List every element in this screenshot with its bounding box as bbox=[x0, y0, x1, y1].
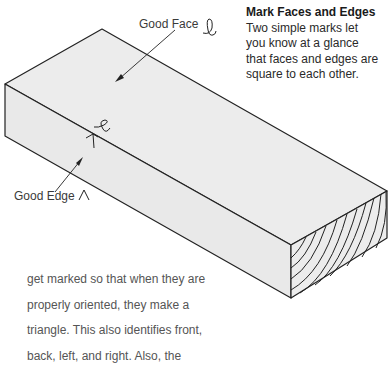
caption-line: you know at a glance bbox=[246, 36, 388, 52]
body-line: triangle. This also identifies front, bbox=[27, 318, 257, 344]
edge-mark-icon bbox=[79, 190, 89, 200]
good-face-label: Good Face bbox=[139, 17, 198, 31]
body-paragraph: get marked so that when they are properl… bbox=[27, 267, 257, 367]
caption-line: square to each other. bbox=[246, 67, 388, 83]
body-line: properly oriented, they make a bbox=[27, 293, 257, 319]
caption: Mark Faces and Edges Two simple marks le… bbox=[246, 5, 388, 83]
caption-line: that faces and edges are bbox=[246, 52, 388, 68]
caption-line: Two simple marks let bbox=[246, 21, 388, 37]
body-line: get marked so that when they are bbox=[27, 267, 257, 293]
good-edge-label: Good Edge bbox=[14, 189, 75, 203]
body-line: back, left, and right. Also, the bbox=[27, 344, 257, 367]
face-mark-icon bbox=[203, 19, 216, 35]
caption-title: Mark Faces and Edges bbox=[246, 5, 388, 21]
